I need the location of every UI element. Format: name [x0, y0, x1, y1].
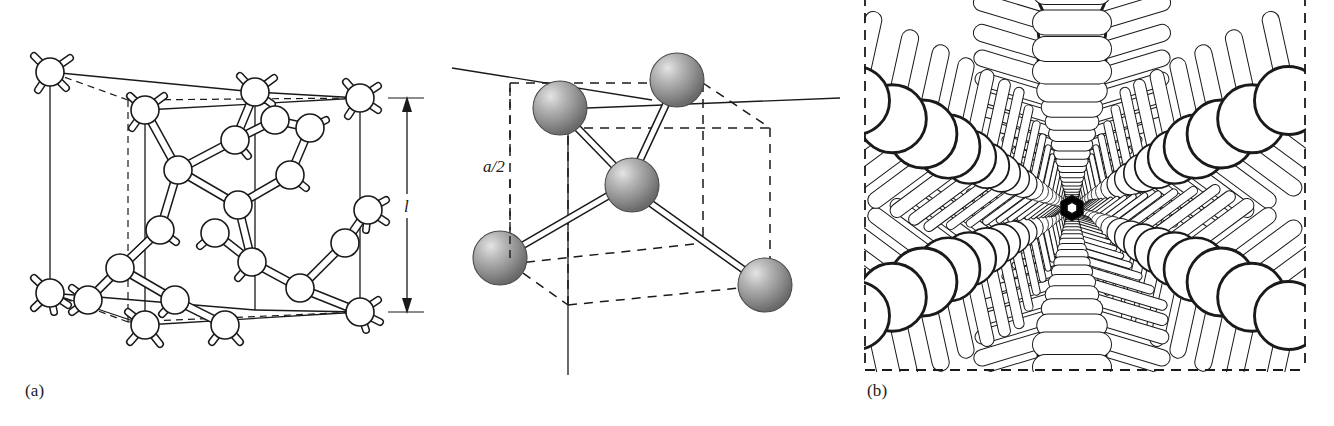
panel-b-tetrahedron: a/2 (b): [420, 0, 860, 426]
panel-c-drawing: [840, 0, 1334, 426]
dimension-a-half-label: a/2: [483, 157, 505, 176]
panel-c-channel-view: (c): [840, 0, 1334, 426]
sphere-lower-left: [473, 231, 527, 285]
panel-a-drawing: l: [0, 0, 440, 426]
panel-a-label: (a): [25, 381, 44, 401]
dimension-l: l: [388, 96, 424, 314]
panel-a-unit-cell: l (a): [0, 0, 440, 426]
figure-crystal-structures: l (a): [0, 0, 1334, 426]
construction-lines: [452, 68, 840, 375]
sphere-center: [605, 158, 659, 212]
channel-lattice: [840, 0, 1334, 426]
panel-b-drawing: a/2: [420, 0, 860, 426]
sphere-upper-right: [650, 53, 704, 107]
sphere-group-b: [473, 53, 792, 312]
dimension-l-label: l: [404, 197, 409, 216]
sphere-lower-right: [738, 258, 792, 312]
sphere-upper-left: [533, 81, 587, 135]
